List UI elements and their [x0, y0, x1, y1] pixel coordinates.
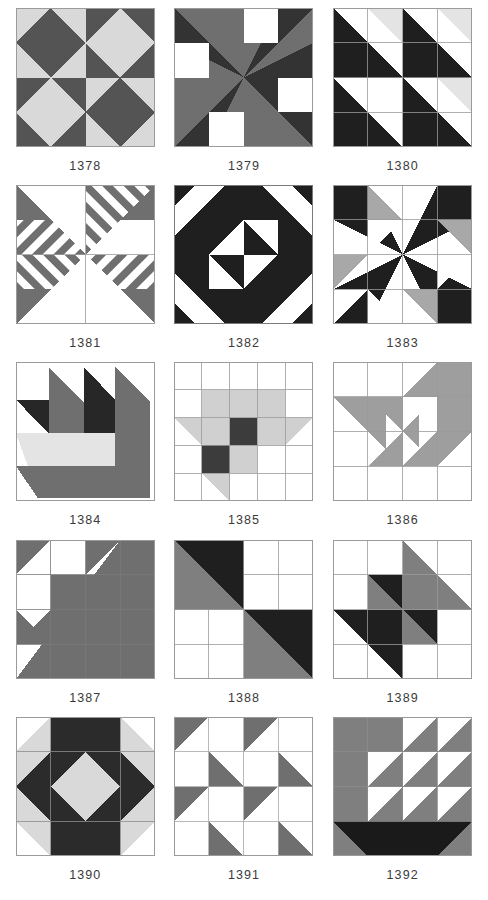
- block-cell-1392: 1392: [323, 717, 482, 894]
- block-caption: 1390: [69, 869, 101, 882]
- quilt-block-1378: [16, 8, 155, 147]
- quilt-block-1389: [333, 540, 472, 679]
- block-caption: 1378: [69, 160, 101, 173]
- block-caption: 1384: [69, 514, 101, 527]
- block-caption: 1382: [228, 337, 260, 350]
- block-cell-1378: 1378: [6, 8, 165, 185]
- quilt-block-1388: [174, 540, 313, 679]
- quilt-block-1383: [333, 185, 472, 324]
- block-caption: 1391: [228, 869, 260, 882]
- block-cell-1391: 1391: [165, 717, 324, 894]
- quilt-block-1386: [333, 362, 472, 501]
- block-cell-1381: 1381: [6, 185, 165, 362]
- quilt-pattern-sheet: 1378: [0, 0, 488, 900]
- quilt-block-1384: [16, 362, 155, 501]
- block-caption: 1387: [69, 692, 101, 705]
- block-cell-1383: 1383: [323, 185, 482, 362]
- block-grid: 1378: [0, 0, 488, 900]
- block-cell-1386: 1386: [323, 362, 482, 539]
- block-cell-1388: 1388: [165, 540, 324, 717]
- block-caption: 1383: [387, 337, 419, 350]
- quilt-block-1392: [333, 717, 472, 856]
- quilt-block-1390: [16, 717, 155, 856]
- block-caption: 1388: [228, 692, 260, 705]
- quilt-block-1387: [16, 540, 155, 679]
- block-cell-1387: 1387: [6, 540, 165, 717]
- block-cell-1384: 1384: [6, 362, 165, 539]
- block-cell-1382: 1382: [165, 185, 324, 362]
- block-caption: 1385: [228, 514, 260, 527]
- quilt-block-1385: [174, 362, 313, 501]
- block-cell-1385: 1385: [165, 362, 324, 539]
- block-caption: 1386: [387, 514, 419, 527]
- quilt-block-1391: [174, 717, 313, 856]
- block-cell-1389: 1389: [323, 540, 482, 717]
- block-cell-1390: 1390: [6, 717, 165, 894]
- quilt-block-1381: [16, 185, 155, 324]
- block-caption: 1392: [387, 869, 419, 882]
- quilt-block-1379: [174, 8, 313, 147]
- block-caption: 1381: [69, 337, 101, 350]
- block-caption: 1379: [228, 160, 260, 173]
- block-caption: 1389: [387, 692, 419, 705]
- quilt-block-1382: [174, 185, 313, 324]
- block-caption: 1380: [387, 160, 419, 173]
- quilt-block-1380: [333, 8, 472, 147]
- block-cell-1380: 1380: [323, 8, 482, 185]
- block-cell-1379: 1379: [165, 8, 324, 185]
